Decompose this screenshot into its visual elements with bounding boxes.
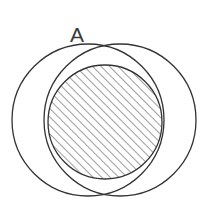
circles-diagram: A bbox=[0, 0, 213, 220]
point-label-a: A bbox=[70, 23, 84, 46]
hatched-region bbox=[48, 65, 162, 179]
diagram-canvas: A bbox=[0, 0, 213, 220]
